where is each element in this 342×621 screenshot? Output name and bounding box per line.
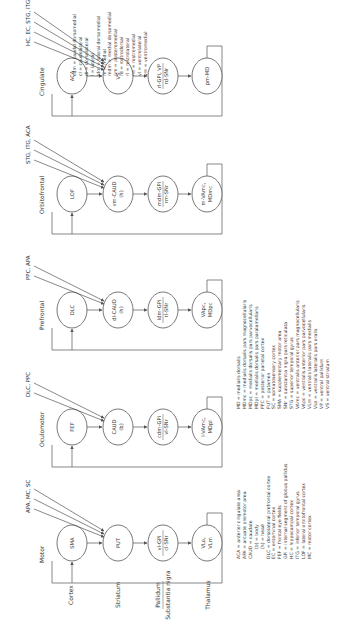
legend-entry: MDpl = medialis dorsalis pars paralamell…: [254, 300, 260, 409]
cortex-label-orbitofrontal: LOF: [69, 189, 75, 199]
thalamus-label-motor: VLm: [207, 537, 213, 549]
cortical-inputs-prefrontal: PPC, APA: [25, 255, 31, 280]
legend-column-2: MD = medialis dorsalisMDmc = medialis do…: [236, 300, 331, 409]
striatum-label-oculomotor: (b): [118, 423, 124, 430]
cortical-inputs-cingulate: HC, EC, STG, ITG: [25, 0, 31, 46]
striatum-label-orbitofrontal: (h): [118, 190, 124, 197]
striatum-label-prefrontal: (h): [118, 306, 124, 313]
pallidum-label-oculomotor: cdm-GPi: [156, 416, 162, 438]
thalamus-label-prefrontal: MDpc: [207, 303, 214, 318]
basal-ganglia-circuit-diagram: Cortex Striatum Pallidum Substantia nigr…: [0, 0, 342, 621]
input-arrow-motor: [34, 489, 104, 531]
striatum-label-motor: PUT: [115, 537, 121, 548]
circuit-title-motor: Motor: [38, 545, 45, 563]
pallidum-label-motor: vl-GPi: [156, 535, 162, 550]
thalamus-label-prefrontal: VApc,: [200, 302, 207, 317]
legend-entry: ldm = lateral dorsomedial: [96, 12, 102, 76]
legend-entry: MDpc = medialis dorsalis pars parvocellu…: [248, 300, 254, 409]
thalamus-label-orbitofrontal: m-VAmc,: [200, 182, 206, 205]
legend-entry: MDmc = medialis dorsalis pars magnocellu…: [242, 300, 248, 409]
legend-entry: VS = ventral striatum: [325, 300, 331, 409]
thalamus-label-cingulate: pm-MD: [204, 67, 211, 86]
thalamus-label-motor: VLo,: [200, 537, 206, 549]
row-label-substantia-nigra: Substantia nigra: [164, 570, 172, 620]
pallidum-label-cingulate: rd-SNr: [163, 67, 169, 84]
legend-entry: MC = motor cortex: [307, 464, 313, 559]
pallidum-label-orbitofrontal: rm-SNr: [163, 184, 169, 203]
thalamus-label-orbitofrontal: MDmc: [207, 186, 213, 203]
pallidum-label-motor: cl-SNr: [163, 534, 169, 550]
circuit-title-prefrontal: Prefrontal: [38, 301, 45, 330]
row-label-thalamus: Thalamus: [204, 580, 211, 610]
thalamus-label-oculomotor: l-VAmc,: [200, 417, 206, 437]
cortical-inputs-orbitofrontal: STG, ITG, ACA: [25, 125, 31, 164]
pallidum-label-cingulate: rl-GPi, VP: [156, 64, 162, 88]
pallidum-label-orbitofrontal: mdm-GPi: [156, 182, 162, 206]
cortical-inputs-motor: APA, MC, SC: [25, 479, 31, 513]
figure: Cortex Striatum Pallidum Substantia nigr…: [0, 0, 342, 621]
thalamus-label-oculomotor: MDpl: [207, 420, 214, 433]
row-label-pallidum: Pallidum: [154, 582, 161, 608]
row-label-cortex: Cortex: [67, 585, 74, 605]
pallidum-label-oculomotor: vl-SNr: [163, 418, 169, 435]
legend-column-1: ACA = anterior cingulate areaAPA = arcua…: [236, 464, 313, 559]
striatum-label-prefrontal: dl-CAUD: [111, 299, 117, 321]
cortical-inputs-oculomotor: DLC, PPC: [25, 372, 31, 397]
row-label-striatum: Striatum: [114, 582, 121, 608]
striatum-label-orbitofrontal: vm-CAUD: [111, 182, 117, 207]
circuit-title-oculomotor: Oculomotor: [38, 411, 45, 447]
legend-entry: vm = ventromedial: [143, 12, 149, 76]
circuits-group: MotorSMAPUTvl-GPicl-SNrVLo,VLmAPA, MC, S…: [25, 0, 222, 583]
cortex-label-motor: SMA: [69, 537, 75, 549]
pallidum-label-prefrontal: ldm-GPi: [156, 300, 162, 320]
circuit-title-orbitofrontal: Orbitofrontal: [38, 175, 45, 214]
legend-entry: VApc = ventralis anterior pars parvocell…: [301, 300, 307, 409]
pallidum-label-prefrontal: rl-SNr: [163, 302, 169, 318]
cortex-label-oculomotor: FEF: [69, 422, 75, 431]
legend-column-3: cdm = caudal dorsomedialcl = caudolatera…: [72, 12, 149, 76]
circuit-title-cingulate: Cingulate: [38, 67, 46, 96]
striatum-label-oculomotor: CAUD: [111, 420, 117, 435]
cortex-label-prefrontal: DLC: [69, 304, 75, 315]
